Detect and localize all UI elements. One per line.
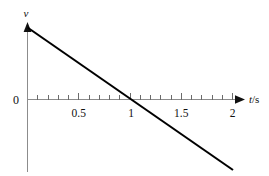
- tick-label-2: 2: [230, 107, 236, 119]
- origin-label: 0: [13, 93, 19, 107]
- tick-label-0-5: 0.5: [72, 107, 87, 119]
- tick-label-1-5: 1.5: [174, 107, 189, 119]
- t-axis-arrow-icon: [235, 95, 245, 103]
- v-axis-label: v: [24, 7, 29, 19]
- tick-label-1: 1: [128, 107, 134, 119]
- t-axis-tick-group: [38, 93, 233, 100]
- t-axis-label: t/s: [249, 93, 259, 105]
- t-axis-unit: /s: [252, 93, 259, 105]
- velocity-time-graph-figure: v t/s 0 0.5 1 1.5 2: [0, 0, 269, 176]
- plot-canvas: v t/s 0 0.5 1 1.5 2: [0, 0, 269, 176]
